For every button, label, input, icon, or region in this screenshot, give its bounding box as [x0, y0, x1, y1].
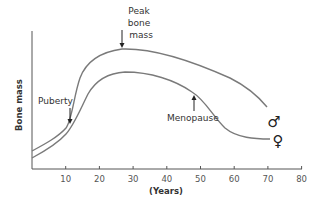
male-symbol-icon: ♂ — [267, 113, 280, 131]
tick-label: 60 — [229, 174, 240, 184]
tick-label: 50 — [195, 174, 206, 184]
x-tick-labels: 10 20 30 40 50 60 70 80 — [60, 174, 307, 184]
female-symbol-icon: ♀ — [273, 132, 284, 150]
tick-label: 30 — [128, 174, 139, 184]
peak-label-line3: mass — [129, 30, 153, 40]
tick-label: 70 — [262, 174, 273, 184]
peak-arrowhead-icon — [120, 43, 125, 48]
peak-label-line1: Peak — [128, 6, 150, 16]
y-axis-title: Bone mass — [14, 79, 24, 131]
x-axis-title: (Years) — [149, 186, 183, 196]
tick-label: 80 — [296, 174, 307, 184]
bone-mass-chart: 10 20 30 40 50 60 70 80 (Years) Bone mas… — [0, 0, 322, 205]
tick-label: 10 — [60, 174, 71, 184]
menopause-arrowhead-icon — [192, 95, 197, 100]
peak-label-line2: bone — [128, 18, 151, 28]
tick-label: 40 — [161, 174, 172, 184]
female-curve — [32, 72, 270, 158]
menopause-label: Menopause — [167, 113, 219, 123]
puberty-label: Puberty — [38, 96, 73, 106]
tick-label: 20 — [94, 174, 105, 184]
